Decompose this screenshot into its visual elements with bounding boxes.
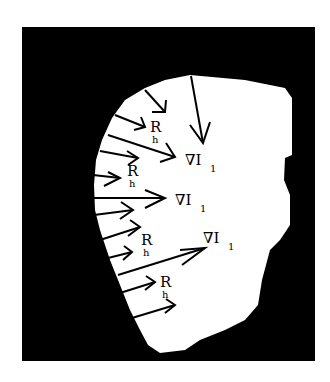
diagram-figure: ∇I 1 ∇I 1 ∇I 1 R h R h R h R h	[0, 0, 330, 382]
svg-text:h: h	[129, 178, 136, 189]
svg-text:1: 1	[228, 241, 234, 252]
svg-text:h: h	[143, 247, 150, 258]
svg-text:∇I: ∇I	[185, 151, 201, 169]
svg-text:1: 1	[210, 163, 216, 174]
svg-text:∇I: ∇I	[203, 229, 219, 247]
svg-text:∇I: ∇I	[175, 191, 191, 209]
svg-text:h: h	[152, 134, 159, 145]
svg-text:h: h	[162, 289, 169, 300]
svg-text:1: 1	[200, 203, 206, 214]
